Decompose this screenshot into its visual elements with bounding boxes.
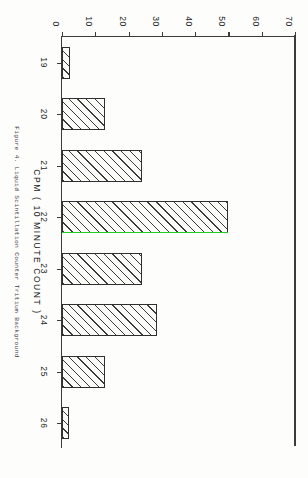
- y-tick: [195, 32, 196, 37]
- x-tick: [57, 114, 62, 115]
- bar: [62, 253, 142, 285]
- y-tick: [95, 32, 96, 37]
- green-marker-line: [62, 232, 228, 233]
- bar: [62, 47, 70, 79]
- bar: [62, 407, 69, 439]
- bar: [62, 98, 105, 130]
- x-tick: [57, 269, 62, 270]
- y-tick: [129, 32, 130, 37]
- bar: [62, 201, 228, 233]
- x-tick: [57, 372, 62, 373]
- x-tick: [57, 423, 62, 424]
- figure-caption: Figure 4. Liquid Scintillation Counter T…: [13, 30, 20, 454]
- bar: [62, 150, 142, 182]
- plot-area: 1920212223242526 010203040506070: [61, 36, 294, 448]
- rotated-figure-stage: 1920212223242526 010203040506070 CPM ( 1…: [0, 0, 308, 478]
- figure-page: 1920212223242526 010203040506070 CPM ( 1…: [0, 0, 308, 478]
- x-tick: [57, 63, 62, 64]
- x-tick: [57, 320, 62, 321]
- y-tick: [262, 32, 263, 37]
- bar: [62, 304, 157, 336]
- x-tick: [57, 166, 62, 167]
- bar: [62, 356, 105, 388]
- x-tick: [57, 217, 62, 218]
- y-tick: [228, 32, 229, 37]
- y-tick: [162, 32, 163, 37]
- x-axis-title: CPM ( 10 MINUTE COUNT ): [32, 36, 42, 448]
- y-tick: [62, 32, 63, 37]
- y-tick: [295, 32, 296, 37]
